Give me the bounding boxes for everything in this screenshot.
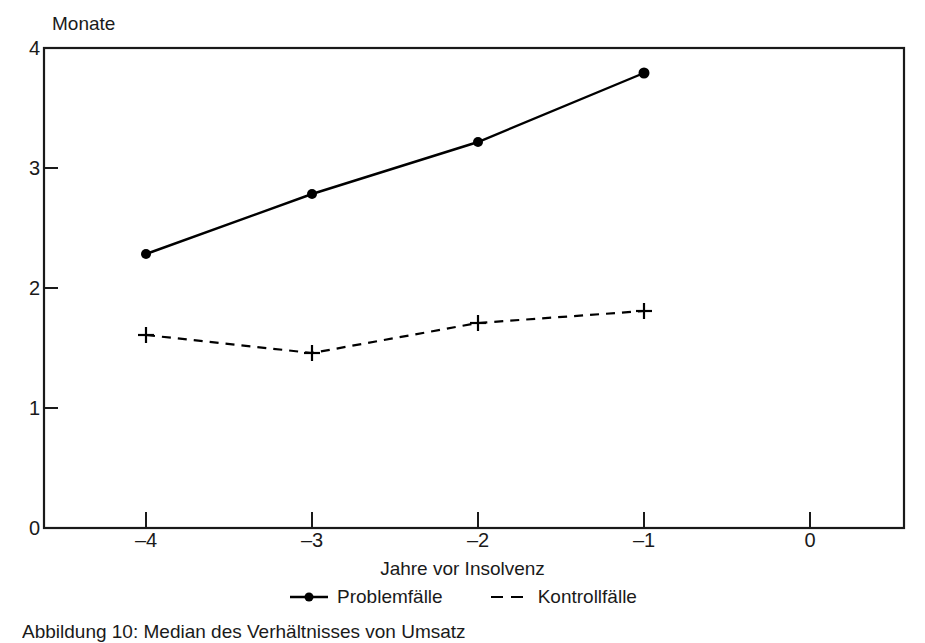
- chart-legend: Problemfälle Kontrollfälle: [0, 586, 925, 608]
- data-point: [473, 137, 483, 147]
- plot-frame: [44, 48, 904, 528]
- figure-caption: Abbildung 10: Median des Verhältnisses v…: [22, 621, 912, 643]
- series-kontrollfaelle: [138, 303, 652, 361]
- x-axis-title: Jahre vor Insolvenz: [0, 558, 925, 580]
- y-tick-marks: [44, 168, 58, 408]
- series-problemfaelle: [141, 68, 650, 260]
- x-tick-marks: [146, 512, 810, 528]
- data-point: [141, 249, 151, 259]
- legend-dashed-line-icon: [489, 590, 531, 604]
- data-point: [639, 68, 650, 79]
- data-point: [307, 189, 317, 199]
- legend-entry-kontrollfaelle: Kontrollfälle: [489, 586, 637, 608]
- legend-entry-problemfaelle: Problemfälle: [288, 586, 443, 608]
- legend-label-kontrollfaelle: Kontrollfälle: [538, 586, 637, 608]
- legend-label-problemfaelle: Problemfälle: [337, 586, 443, 608]
- legend-solid-line-icon: [288, 590, 330, 604]
